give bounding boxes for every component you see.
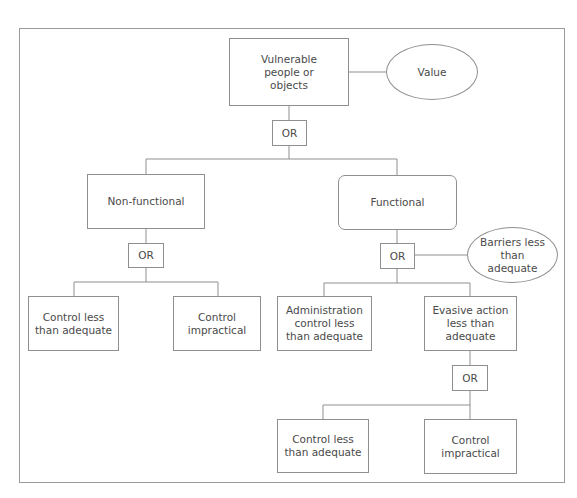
node-label: Control less than adequate [282, 433, 364, 459]
gate-label: OR [462, 372, 478, 385]
gate-label: OR [138, 249, 154, 262]
or-gate-root: OR [272, 120, 307, 146]
node-vulnerable-people-or-objects: Vulnerable people or objects [229, 38, 349, 106]
node-functional: Functional [338, 175, 457, 230]
node-value: Value [386, 44, 478, 100]
or-gate-evasive: OR [452, 365, 488, 391]
node-nf-control-impractical: Control impractical [173, 296, 261, 351]
node-administration-control: Administration control less than adequat… [277, 296, 372, 351]
node-label: Control impractical [188, 311, 247, 337]
node-label: Non-functional [108, 195, 185, 208]
node-label: Control impractical [441, 434, 500, 460]
node-ev-control-impractical: Control impractical [424, 419, 517, 474]
gate-label: OR [390, 250, 406, 263]
or-gate-functional: OR [380, 243, 415, 269]
node-evasive-action: Evasive action less than adequate [424, 296, 517, 351]
gate-label: OR [282, 127, 298, 140]
node-nf-control-less-than-adequate: Control less than adequate [28, 296, 119, 351]
node-label: Control less than adequate [33, 311, 114, 337]
node-label: Value [418, 66, 447, 79]
node-non-functional: Non-functional [87, 174, 205, 229]
node-label: Vulnerable people or objects [244, 53, 334, 92]
node-label: Functional [370, 196, 424, 209]
or-gate-non-functional: OR [128, 243, 164, 268]
node-barriers-less-than-adequate: Barriers less than adequate [467, 227, 558, 283]
node-label: Administration control less than adequat… [282, 304, 367, 343]
node-label: Evasive action less than adequate [431, 304, 510, 343]
node-ev-control-less-than-adequate: Control less than adequate [277, 419, 369, 473]
node-label: Barriers less than adequate [478, 236, 547, 275]
